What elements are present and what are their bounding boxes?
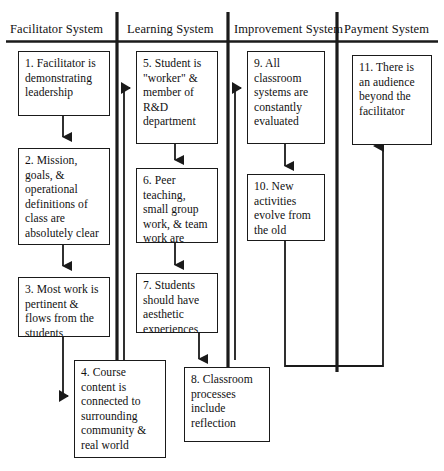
process-node-2[interactable]: 2. Mission, goals, & operational definit… — [18, 148, 110, 245]
edge-n3-n4 — [63, 337, 68, 396]
process-node-5-label: 5. Student is "worker" & member of R&D d… — [143, 57, 213, 130]
process-node-10-label: 10. New activities evolve from the old — [254, 180, 320, 238]
process-node-8[interactable]: 8. Classroom processes include reflectio… — [184, 367, 270, 442]
process-node-6-label: 6. Peer teaching, small group work, & te… — [143, 174, 213, 243]
process-node-11[interactable]: 11. There is an audience beyond the faci… — [352, 55, 432, 145]
process-node-8-label: 8. Classroom processes include reflectio… — [191, 373, 265, 431]
lane-header-improvement: Improvement System — [234, 22, 343, 36]
process-node-4[interactable]: 4. Course content is connected to surrou… — [74, 360, 166, 458]
process-node-3[interactable]: 3. Most work is pertinent & flows from t… — [18, 277, 110, 337]
process-node-1-label: 1. Facilitator is demonstrating leadersh… — [25, 57, 105, 101]
process-node-5[interactable]: 5. Student is "worker" & member of R&D d… — [136, 51, 218, 144]
lane-header-payment: Payment System — [344, 22, 429, 36]
process-node-6[interactable]: 6. Peer teaching, small group work, & te… — [136, 168, 218, 243]
edge-n8-n9 — [235, 88, 241, 360]
process-node-3-label: 3. Most work is pertinent & flows from t… — [25, 283, 105, 337]
process-node-9[interactable]: 9. All classroom systems are constantly … — [247, 51, 325, 144]
lane-header-facilitator: Facilitator System — [10, 22, 103, 36]
edge-n4-n5 — [124, 88, 130, 360]
process-node-7[interactable]: 7. Students should have aesthetic experi… — [136, 273, 218, 333]
process-node-11-label: 11. There is an audience beyond the faci… — [359, 61, 427, 119]
diagram-canvas: Facilitator System Learning System Impro… — [0, 0, 444, 471]
process-node-7-label: 7. Students should have aesthetic experi… — [143, 279, 213, 333]
process-node-9-label: 9. All classroom systems are constantly … — [254, 57, 320, 130]
process-node-4-label: 4. Course content is connected to surrou… — [81, 366, 161, 454]
lane-header-learning: Learning System — [127, 22, 214, 36]
process-node-10[interactable]: 10. New activities evolve from the old — [247, 174, 325, 241]
process-node-1[interactable]: 1. Facilitator is demonstrating leadersh… — [18, 51, 110, 116]
process-node-2-label: 2. Mission, goals, & operational definit… — [25, 154, 105, 242]
